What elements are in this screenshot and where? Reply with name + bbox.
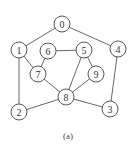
node-4: 4 [110,41,126,57]
node-5: 5 [76,42,92,58]
node-label: 0 [60,19,65,30]
node-3: 3 [102,101,118,117]
node-label: 1 [17,45,22,56]
node-label: 6 [46,46,51,57]
node-layer: 0123456789 [11,16,126,120]
node-label: 3 [108,104,113,115]
node-label: 4 [116,44,121,55]
node-label: 2 [17,107,22,118]
node-0: 0 [54,16,70,32]
node-2: 2 [11,104,27,120]
node-label: 9 [94,69,99,80]
node-label: 8 [64,92,69,103]
graph-diagram: 0123456789 (a) [0,0,137,148]
node-6: 6 [40,43,56,59]
edge-3-4 [110,49,118,109]
node-8: 8 [58,89,74,105]
node-1: 1 [11,42,27,58]
node-7: 7 [30,66,46,82]
node-label: 7 [36,69,41,80]
node-label: 5 [82,45,87,56]
figure-caption: (a) [63,131,73,141]
node-9: 9 [88,66,104,82]
